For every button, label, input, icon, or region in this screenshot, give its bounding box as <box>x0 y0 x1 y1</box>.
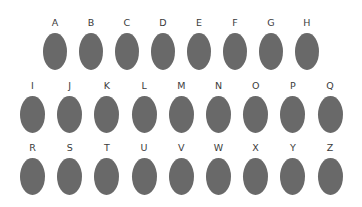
ellipse-cell-a[interactable]: A <box>37 17 73 70</box>
ellipse-label-u: U <box>141 142 148 153</box>
ellipse-label-q: Q <box>326 80 334 91</box>
ellipse-cell-m[interactable]: M <box>163 80 200 133</box>
ellipse-label-r: R <box>29 142 36 153</box>
ellipse-cell-b[interactable]: B <box>73 17 109 70</box>
ellipse-label-w: W <box>214 142 224 153</box>
ellipse-cell-n[interactable]: N <box>200 80 237 133</box>
ellipse-row-1: ABCDEFGH <box>37 17 325 70</box>
ellipse-cell-l[interactable]: L <box>126 80 163 133</box>
ellipse-shape-f[interactable] <box>223 33 247 70</box>
ellipse-shape-w[interactable] <box>206 158 231 195</box>
ellipse-cell-u[interactable]: U <box>126 142 163 195</box>
ellipse-cell-g[interactable]: G <box>253 17 289 70</box>
ellipse-shape-q[interactable] <box>318 96 343 133</box>
ellipse-label-s: S <box>67 142 73 153</box>
ellipse-cell-c[interactable]: C <box>109 17 145 70</box>
ellipse-shape-a[interactable] <box>43 33 67 70</box>
ellipse-shape-b[interactable] <box>79 33 103 70</box>
ellipse-shape-s[interactable] <box>57 158 82 195</box>
ellipse-cell-t[interactable]: T <box>88 142 125 195</box>
ellipse-shape-h[interactable] <box>295 33 319 70</box>
ellipse-label-p: P <box>290 80 296 91</box>
ellipse-shape-j[interactable] <box>57 96 82 133</box>
ellipse-label-y: Y <box>290 142 296 153</box>
ellipse-cell-f[interactable]: F <box>217 17 253 70</box>
ellipse-cell-d[interactable]: D <box>145 17 181 70</box>
ellipse-label-t: T <box>104 142 110 153</box>
ellipse-label-v: V <box>178 142 185 153</box>
ellipse-shape-x[interactable] <box>243 158 268 195</box>
ellipse-shape-d[interactable] <box>151 33 175 70</box>
ellipse-label-j: J <box>68 80 71 91</box>
ellipse-shape-g[interactable] <box>259 33 283 70</box>
ellipse-cell-i[interactable]: I <box>14 80 51 133</box>
ellipse-shape-z[interactable] <box>318 158 343 195</box>
ellipse-shape-y[interactable] <box>280 158 305 195</box>
ellipse-label-h: H <box>303 17 310 28</box>
ellipse-shape-c[interactable] <box>115 33 139 70</box>
ellipse-label-l: L <box>141 80 147 91</box>
ellipse-label-d: D <box>159 17 167 28</box>
ellipse-row-2: IJKLMNOPQ <box>14 80 349 133</box>
ellipse-label-k: K <box>104 80 110 91</box>
ellipse-shape-t[interactable] <box>94 158 119 195</box>
ellipse-label-e: E <box>196 17 202 28</box>
ellipse-label-b: B <box>88 17 95 28</box>
ellipse-shape-e[interactable] <box>187 33 211 70</box>
ellipse-shape-i[interactable] <box>20 96 45 133</box>
ellipse-cell-e[interactable]: E <box>181 17 217 70</box>
ellipse-label-f: F <box>232 17 238 28</box>
ellipse-row-3: RSTUVWXYZ <box>14 142 349 195</box>
ellipse-label-g: G <box>267 17 275 28</box>
ellipse-shape-k[interactable] <box>94 96 119 133</box>
ellipse-shape-v[interactable] <box>169 158 194 195</box>
ellipse-cell-j[interactable]: J <box>51 80 88 133</box>
ellipse-label-n: N <box>215 80 222 91</box>
ellipse-cell-r[interactable]: R <box>14 142 51 195</box>
ellipse-shape-p[interactable] <box>280 96 305 133</box>
ellipse-shape-u[interactable] <box>132 158 157 195</box>
ellipse-cell-h[interactable]: H <box>289 17 325 70</box>
ellipse-label-o: O <box>252 80 260 91</box>
ellipse-shape-o[interactable] <box>243 96 268 133</box>
ellipse-label-i: I <box>31 80 34 91</box>
ellipse-cell-o[interactable]: O <box>237 80 274 133</box>
ellipse-cell-y[interactable]: Y <box>274 142 311 195</box>
ellipse-cell-w[interactable]: W <box>200 142 237 195</box>
ellipse-cell-q[interactable]: Q <box>312 80 349 133</box>
alphabet-ellipse-figure: ABCDEFGH IJKLMNOPQ RSTUVWXYZ <box>0 0 362 207</box>
ellipse-label-c: C <box>124 17 131 28</box>
ellipse-label-z: Z <box>327 142 334 153</box>
ellipse-shape-l[interactable] <box>132 96 157 133</box>
ellipse-cell-k[interactable]: K <box>88 80 125 133</box>
ellipse-cell-p[interactable]: P <box>274 80 311 133</box>
ellipse-cell-s[interactable]: S <box>51 142 88 195</box>
ellipse-label-x: X <box>252 142 259 153</box>
ellipse-shape-n[interactable] <box>206 96 231 133</box>
ellipse-shape-m[interactable] <box>169 96 194 133</box>
ellipse-cell-z[interactable]: Z <box>312 142 349 195</box>
ellipse-label-m: M <box>177 80 185 91</box>
ellipse-label-a: A <box>52 17 59 28</box>
ellipse-cell-x[interactable]: X <box>237 142 274 195</box>
ellipse-shape-r[interactable] <box>20 158 45 195</box>
ellipse-cell-v[interactable]: V <box>163 142 200 195</box>
